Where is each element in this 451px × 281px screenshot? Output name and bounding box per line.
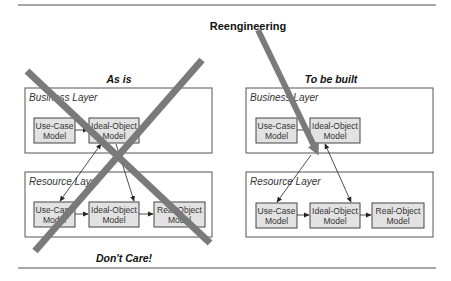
svg-text:Real-Object: Real-Object — [376, 206, 422, 216]
svg-text:Ideal-Object: Ideal-Object — [312, 206, 358, 216]
svg-text:Model: Model — [323, 216, 346, 226]
svg-text:Model: Model — [265, 131, 288, 141]
svg-text:Ideal-Object: Ideal-Object — [91, 121, 137, 131]
svg-text:Model: Model — [102, 215, 125, 225]
to-be-built-business-ideal-object-model: Ideal-Object Model — [310, 118, 360, 143]
as-is-heading: As is — [105, 73, 131, 85]
dont-care-label: Don't Care! — [96, 252, 153, 264]
svg-text:Model: Model — [102, 131, 125, 141]
svg-text:Use-Case: Use-Case — [258, 121, 296, 131]
to-be-built-resource-real-object-model: Real-Object Model — [372, 203, 424, 228]
to-be-built-business-use-case-model: Use-Case Model — [256, 118, 297, 143]
svg-text:Model: Model — [386, 216, 409, 226]
as-is-panel: As is Business Layer Use-Case Model Idea… — [25, 60, 212, 264]
reengineering-diagram: Reengineering As is Business Layer Use-C… — [0, 0, 451, 281]
svg-text:Model: Model — [265, 216, 288, 226]
svg-text:Ideal-Object: Ideal-Object — [91, 205, 137, 215]
layer-label: Business Layer — [250, 92, 319, 103]
to-be-built-panel: To be built Business Layer Use-Case Mode… — [246, 30, 433, 237]
as-is-business-use-case-model: Use-Case Model — [34, 118, 75, 143]
svg-text:Use-Case: Use-Case — [36, 121, 74, 131]
as-is-resource-ideal-object-model: Ideal-Object Model — [89, 202, 139, 227]
layer-label: Resource Layer — [250, 176, 321, 187]
svg-text:Use-Case: Use-Case — [258, 206, 296, 216]
svg-text:Model: Model — [323, 131, 346, 141]
to-be-built-heading: To be built — [305, 73, 358, 85]
to-be-built-resource-use-case-model: Use-Case Model — [256, 203, 297, 228]
svg-text:Ideal-Object: Ideal-Object — [312, 121, 358, 131]
to-be-built-resource-ideal-object-model: Ideal-Object Model — [310, 203, 360, 228]
svg-text:Model: Model — [43, 131, 66, 141]
diagram-title: Reengineering — [210, 20, 286, 32]
